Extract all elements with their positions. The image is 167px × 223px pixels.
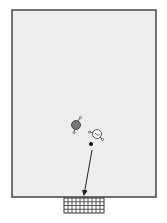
- playing-field: [12, 10, 156, 197]
- ball-icon: [89, 142, 93, 146]
- play-diagram: [0, 0, 167, 223]
- goal-net: [64, 198, 104, 213]
